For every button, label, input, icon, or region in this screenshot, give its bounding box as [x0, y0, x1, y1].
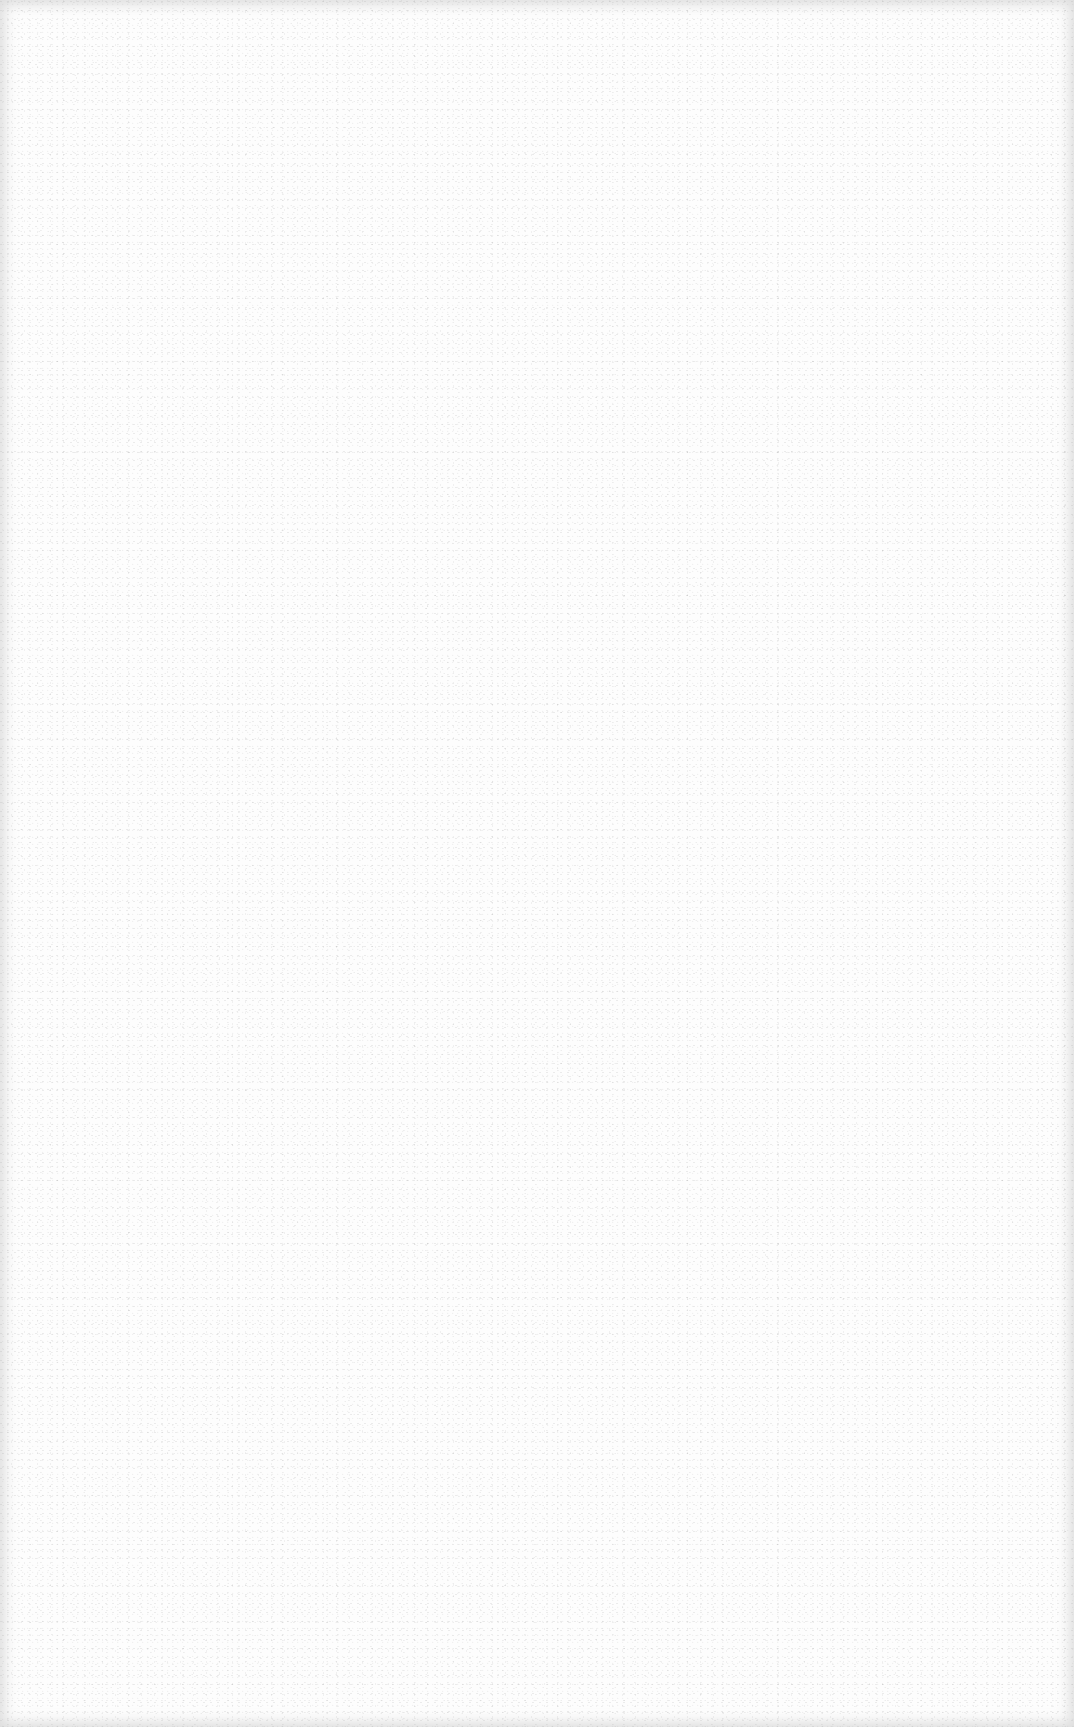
paper-noise-texture [0, 0, 1074, 1727]
blank-paper-sheet [0, 0, 1074, 1727]
